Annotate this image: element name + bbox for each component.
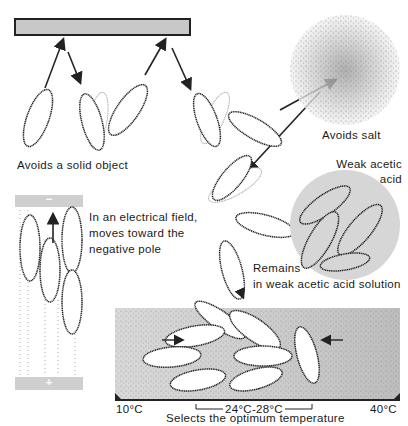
label-temp-high: 40°C xyxy=(370,402,397,417)
label-remains-line1: Remains xyxy=(253,261,300,276)
label-acid-title-line1: Weak acetic xyxy=(330,157,402,172)
label-avoids-salt: Avoids salt xyxy=(322,128,381,143)
label-temp-low: 10°C xyxy=(116,402,143,417)
label-electrical-line3: negative pole xyxy=(89,242,161,257)
paramecium-group-solid xyxy=(17,79,286,153)
positive-pole-sign: + xyxy=(39,376,59,388)
label-remains-line2: in weak acetic acid solution xyxy=(253,277,401,292)
label-electrical-line2: moves toward the xyxy=(89,226,185,241)
electrical-field-apparatus xyxy=(15,195,83,390)
salt-cloud xyxy=(290,15,400,125)
label-acid-title-line2: acid xyxy=(330,172,402,187)
negative-pole-sign: − xyxy=(39,193,59,205)
label-temp-caption: Selects the optimum temperature xyxy=(166,411,345,426)
paramecium-diagram xyxy=(0,0,408,426)
temperature-field xyxy=(115,295,400,409)
label-avoids-solid-object: Avoids a solid object xyxy=(17,158,128,173)
solid-object-bar xyxy=(15,19,190,35)
label-electrical-line1: In an electrical field, xyxy=(89,210,198,225)
